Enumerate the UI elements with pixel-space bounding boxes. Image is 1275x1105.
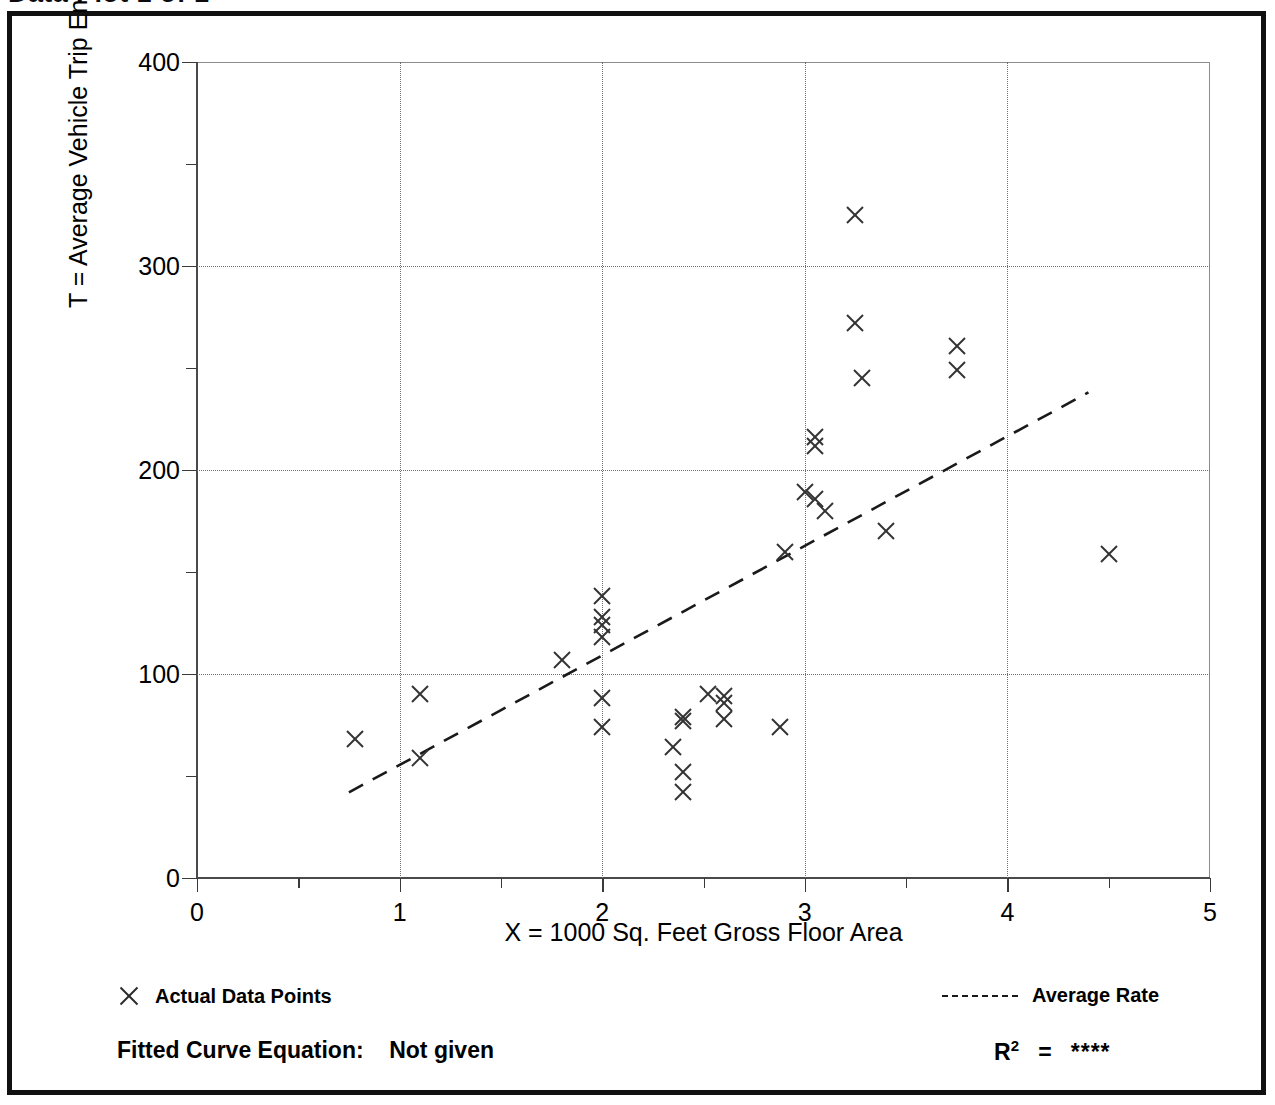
y-axis-title: T = Average Vehicle Trip Ends (64, 0, 93, 308)
r-squared-value: **** (1071, 1039, 1111, 1065)
x-tick-major (197, 878, 198, 892)
y-tick-minor (186, 368, 197, 369)
y-tick-minor (186, 164, 197, 165)
y-tick-major (182, 674, 197, 675)
chart-legend: Actual Data Points Average Rate (12, 984, 1271, 1024)
y-tick-major (182, 62, 197, 63)
fitted-curve-equation-label: Fitted Curve Equation: (117, 1037, 364, 1063)
legend-label-actual-data-points: Actual Data Points (155, 985, 332, 1008)
x-tick-major (602, 878, 603, 892)
y-tick-label: 200 (60, 458, 180, 483)
y-tick-major (182, 470, 197, 471)
x-tick-major (400, 878, 401, 892)
average-rate-trendline (197, 62, 1210, 878)
x-tick-minor (906, 878, 907, 888)
legend-item-average-rate: Average Rate (942, 984, 1159, 1007)
r-squared-exponent: 2 (1011, 1037, 1019, 1054)
figure-frame: 0100200300400 012345 T = Average Vehicle… (7, 11, 1266, 1095)
x-tick-minor (1109, 878, 1110, 888)
fitted-curve-equation-value: Not given (389, 1037, 494, 1063)
r-squared-equals: = (1038, 1039, 1051, 1065)
x-tick-major (1210, 878, 1211, 892)
y-tick-minor (186, 776, 197, 777)
legend-label-average-rate: Average Rate (1032, 984, 1159, 1007)
y-tick-minor (186, 572, 197, 573)
x-tick-major (1007, 878, 1008, 892)
legend-item-actual-data-points: Actual Data Points (117, 984, 332, 1008)
y-tick-label: 0 (60, 866, 180, 891)
y-tick-label: 100 (60, 662, 180, 687)
r-squared-statistic: R2 = **** (994, 1037, 1111, 1066)
page-title: Data Plot 1 of 1 (8, 0, 209, 9)
fitted-curve-equation: Fitted Curve Equation: Not given (117, 1037, 494, 1064)
y-tick-major (182, 878, 197, 879)
x-tick-minor (298, 878, 299, 888)
x-tick-minor (501, 878, 502, 888)
r-squared-label: R (994, 1039, 1011, 1065)
plot-area: 0100200300400 012345 (197, 62, 1210, 878)
chart-footer: Fitted Curve Equation: Not given R2 = **… (12, 1037, 1271, 1083)
x-marker-icon (117, 984, 141, 1008)
dashed-line-icon (942, 995, 1018, 997)
x-axis-title: X = 1000 Sq. Feet Gross Floor Area (197, 918, 1210, 947)
x-tick-minor (704, 878, 705, 888)
y-tick-major (182, 266, 197, 267)
x-tick-major (805, 878, 806, 892)
